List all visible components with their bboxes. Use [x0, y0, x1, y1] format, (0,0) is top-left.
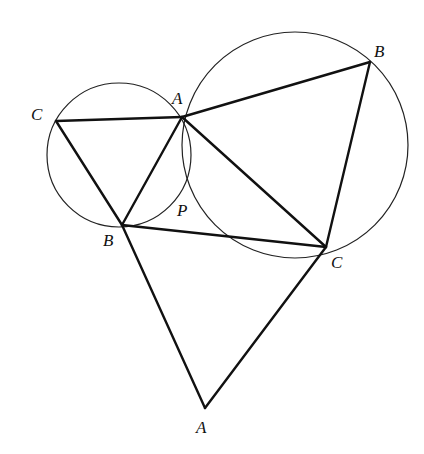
- point-label-C2: C: [331, 253, 343, 272]
- segment-B1-A3: [122, 225, 205, 408]
- point-label-A3: A: [195, 418, 207, 437]
- labels-group: ABCBCAP: [31, 42, 385, 437]
- segment-C1-A1: [56, 117, 182, 121]
- point-label-C1: C: [31, 105, 43, 124]
- segment-B2-C2: [326, 62, 370, 247]
- point-label-A1: A: [171, 89, 183, 108]
- small-circle: [47, 83, 191, 227]
- point-label-P: P: [176, 201, 187, 220]
- point-label-B1: B: [103, 231, 114, 250]
- segment-C2-A3: [205, 247, 326, 408]
- segment-A1-C2: [182, 117, 326, 247]
- segment-B1-C2: [122, 225, 326, 247]
- large-circle: [182, 32, 408, 258]
- segment-A1-B1: [122, 117, 182, 225]
- point-label-B2: B: [374, 42, 385, 61]
- geometry-diagram: ABCBCAP: [0, 0, 424, 454]
- segment-C1-B1: [56, 121, 122, 225]
